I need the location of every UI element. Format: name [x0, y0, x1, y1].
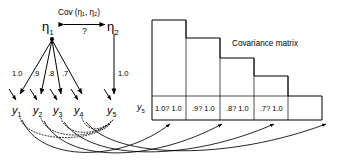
latent-eta2: η2	[107, 20, 119, 37]
residual-correlation-arcs	[20, 118, 113, 138]
latent-eta1: η1	[42, 20, 54, 37]
eta2-subscript: 2	[114, 28, 118, 37]
matrix-cell-2: .9? 1.0	[192, 105, 215, 112]
covariance-matrix-title: Covariance matrix	[232, 40, 298, 48]
y3-subscript: 3	[59, 111, 63, 118]
observed-y5: y5	[107, 105, 116, 118]
observed-y3: y3	[53, 105, 62, 118]
eta1-subscript: 1	[49, 28, 53, 37]
observed-y1: y1	[12, 105, 21, 118]
loading-label-eta2-y5: 1.0	[118, 70, 129, 78]
observed-y4: y4	[74, 105, 83, 118]
observed-y2: y2	[33, 105, 42, 118]
loading-label-2: .9	[33, 70, 39, 78]
loading-label-3: .8	[48, 70, 54, 78]
loading-label-4: .7	[62, 70, 68, 78]
matrix-link-arrows	[22, 120, 326, 153]
matrix-row-label-subscript: 5	[142, 108, 145, 114]
matrix-cell-1: 1.0? 1.0	[155, 105, 182, 112]
y1-subscript: 1	[18, 111, 22, 118]
covariance-eta-label: Cov (η₁, η₂)	[58, 9, 100, 17]
loading-label-1: 1.0	[12, 70, 23, 78]
matrix-cell-4: .7? 1.0	[260, 105, 283, 112]
y4-subscript: 4	[80, 111, 84, 118]
covariance-value-question: ?	[82, 27, 87, 36]
matrix-row-label: y5	[137, 103, 145, 114]
y5-subscript: 5	[113, 111, 117, 118]
sem-covariance-figure: Cov (η₁, η₂) ? η1 η2 1.0 .9 .8 .7 1.0 y1…	[0, 0, 342, 168]
y2-subscript: 2	[39, 111, 43, 118]
matrix-cell-3: .8? 1.0	[226, 105, 249, 112]
eta1-loading-arrows	[20, 37, 82, 94]
